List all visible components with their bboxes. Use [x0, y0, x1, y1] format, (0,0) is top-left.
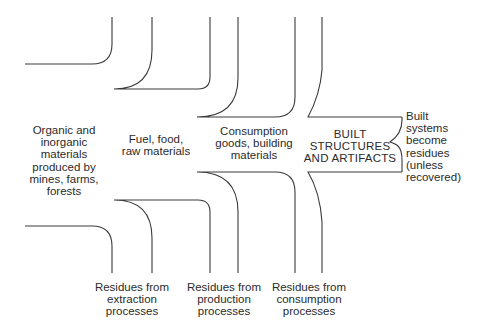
consumption-channel-bottom	[197, 172, 295, 273]
stage-label-extraction: Organic and inorganic materials produced…	[24, 124, 104, 197]
residue-label-consumption: Residues from consumption processes	[269, 281, 349, 318]
residue-label-production: Residues from production processes	[184, 281, 264, 318]
built-channel-bottom	[308, 172, 402, 273]
built-channel-top	[308, 17, 402, 117]
stage-label-consumption: Consumption goods, building materials	[210, 125, 298, 162]
extraction-channel-top	[25, 17, 112, 64]
stage-label-production: Fuel, food, raw materials	[120, 133, 192, 157]
residue-label-extraction: Residues from extraction processes	[92, 281, 172, 318]
annotation-built-systems: Built systems become residues (unless re…	[406, 110, 478, 183]
production-channel-bottom	[114, 200, 210, 273]
extraction-channel-bottom	[25, 226, 112, 273]
consumption-channel-top	[197, 17, 295, 117]
production-channel-top	[114, 17, 210, 89]
stage-label-built: BUILT STRUCTURES AND ARTIFACTS	[302, 128, 398, 165]
